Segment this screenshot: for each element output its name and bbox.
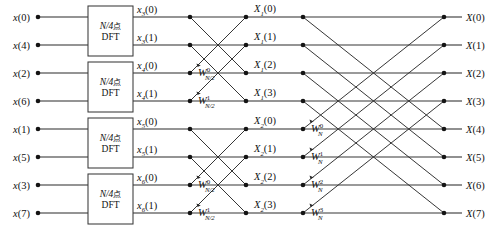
stage1-out-label-4: x5(0)	[136, 116, 158, 129]
math-argument: (2)	[472, 68, 485, 80]
output-label-0: X(0)	[465, 12, 485, 24]
stage2-in-node-6	[188, 183, 193, 188]
input-node-0	[36, 15, 41, 20]
dft-block-label-line2-2: DFT	[102, 144, 120, 154]
fft-signal-flow-graph: N/4点DFTN/4点DFTN/4点DFTN/4点DFT x(0)x(4)x(2…	[0, 0, 498, 236]
math-argument: (0)	[264, 115, 277, 127]
stage2-out-label-2: X1(2)	[253, 59, 277, 72]
math-subscript: N	[317, 214, 323, 221]
math-superscript: 0	[320, 122, 324, 129]
math-argument: (6)	[472, 180, 485, 192]
math-argument: (0)	[145, 116, 158, 128]
math-argument: (0)	[145, 172, 158, 184]
output-node-3	[442, 99, 447, 104]
stage2-in-node-2	[188, 71, 193, 76]
output-label-5: X(5)	[465, 152, 485, 164]
math-argument: (2)	[264, 171, 277, 183]
stage1-out-label-3: x4(1)	[136, 88, 158, 101]
math-superscript: 3	[320, 206, 324, 213]
output-node-1	[442, 43, 447, 48]
output-label-3: X(3)	[465, 96, 485, 108]
stage2-out-node-5	[244, 155, 249, 160]
math-argument: (4)	[18, 40, 31, 52]
input-node-3	[36, 99, 41, 104]
stage2-in-node-0	[188, 15, 193, 20]
math-argument: (5)	[18, 152, 31, 164]
math-subscript: N/2	[204, 74, 215, 81]
math-argument: (3)	[264, 199, 277, 211]
math-superscript: 1	[207, 206, 210, 213]
output-node-5	[442, 155, 447, 160]
math-superscript: 0	[207, 178, 211, 185]
stage2-out-label-1: X1(1)	[253, 31, 277, 44]
stage1-out-label-7: x6(1)	[136, 200, 158, 213]
stage2-out-label-0: X1(0)	[253, 3, 277, 16]
math-argument: (1)	[145, 32, 158, 44]
dft-block-2	[88, 118, 133, 168]
stage3-in-node-3	[301, 99, 306, 104]
output-label-6: X(6)	[465, 180, 485, 192]
dft-block-1	[88, 62, 133, 112]
math-argument: (7)	[18, 208, 31, 220]
stage1-out-label-2: x4(0)	[136, 60, 158, 73]
output-node-4	[442, 127, 447, 132]
math-argument: (1)	[264, 31, 277, 43]
math-argument: (2)	[264, 59, 277, 71]
math-argument: (3)	[18, 180, 31, 192]
stage3-in-node-5	[301, 155, 306, 160]
stage3-twiddle-label-0: W0N	[311, 122, 324, 136]
output-node-2	[442, 71, 447, 76]
stage2-in-node-7	[188, 211, 193, 216]
math-argument: (3)	[472, 96, 485, 108]
input-label-7: x(7)	[12, 208, 30, 220]
math-subscript: N/2	[204, 214, 215, 221]
math-superscript: 1	[207, 94, 210, 101]
math-argument: (1)	[264, 143, 277, 155]
math-argument: (1)	[145, 144, 158, 156]
stage3-in-node-0	[301, 15, 306, 20]
stage2-out-node-2	[244, 71, 249, 76]
stage3-twiddle-label-2: W2N	[311, 178, 324, 192]
stage2-out-label-7: X2(3)	[253, 199, 277, 212]
input-node-5	[36, 155, 41, 160]
stage1-out-label-6: x6(0)	[136, 172, 158, 185]
dft-block-label-line1-2: N/4点	[99, 133, 122, 143]
math-argument: (1)	[145, 88, 158, 100]
math-argument: (1)	[145, 200, 158, 212]
input-node-4	[36, 127, 41, 132]
stage3-in-node-7	[301, 211, 306, 216]
output-label-4: X(4)	[465, 124, 485, 136]
input-label-0: x(0)	[12, 12, 30, 24]
stage2-out-label-6: X2(2)	[253, 171, 277, 184]
math-subscript: N	[317, 130, 323, 137]
math-argument: (4)	[472, 124, 485, 136]
fft-diagram-canvas: N/4点DFTN/4点DFTN/4点DFTN/4点DFT x(0)x(4)x(2…	[0, 0, 498, 236]
input-node-2	[36, 71, 41, 76]
dft-block-label-line1-1: N/4点	[99, 77, 122, 87]
stage1-out-label-0: x3(0)	[136, 4, 158, 17]
math-argument: (0)	[264, 3, 277, 15]
dft-block-layer: N/4点DFTN/4点DFTN/4点DFTN/4点DFT	[88, 6, 133, 224]
dft-block-label-line1-0: N/4点	[99, 21, 122, 31]
stage2-out-node-0	[244, 15, 249, 20]
stage2-out-node-3	[244, 99, 249, 104]
input-label-4: x(4)	[12, 40, 30, 52]
stage2-out-node-6	[244, 183, 249, 188]
stage2-in-node-5	[188, 155, 193, 160]
stage3-twiddle-label-1: W1N	[311, 150, 323, 164]
math-subscript: N	[317, 186, 323, 193]
math-argument: (1)	[472, 40, 485, 52]
math-argument: (6)	[18, 96, 31, 108]
input-label-2: x(2)	[12, 68, 30, 80]
stage2-out-node-7	[244, 211, 249, 216]
dft-block-label-line1-3: N/4点	[99, 189, 122, 199]
math-argument: (5)	[472, 152, 485, 164]
math-subscript: N/2	[204, 186, 215, 193]
input-node-7	[36, 211, 41, 216]
math-argument: (0)	[145, 60, 158, 72]
math-argument: (1)	[18, 124, 31, 136]
math-argument: (2)	[18, 68, 31, 80]
output-node-7	[442, 211, 447, 216]
math-superscript: 0	[207, 66, 211, 73]
stage2-in-node-4	[188, 127, 193, 132]
